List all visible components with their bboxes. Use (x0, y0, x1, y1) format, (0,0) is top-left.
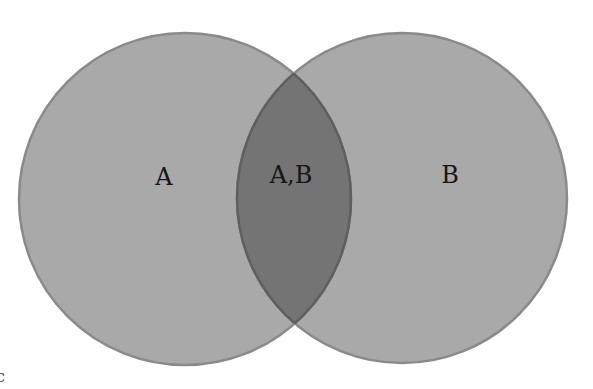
corner-glyph: c (0, 367, 5, 386)
venn-diagram: A A,B B (0, 0, 593, 389)
set-b-label: B (441, 161, 459, 189)
intersection-label: A,B (269, 161, 313, 189)
set-a-label: A (154, 163, 173, 191)
